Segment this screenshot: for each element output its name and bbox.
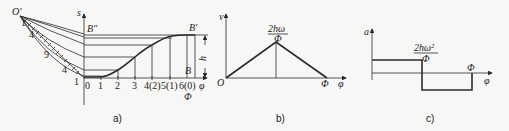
level-label-denominator: Φ [422,53,430,64]
phi-axis-label-b: φ [338,78,344,89]
period-label-a: Φ [184,91,192,102]
displacement-curve [84,35,195,77]
fan-label-1: 1 [21,17,26,28]
velocity-triangle [226,42,327,78]
caption-b: b) [276,113,285,124]
phi-axis-label-a: φ [199,80,205,91]
origin-label-a: O' [12,6,22,17]
caption-c: c) [426,113,434,124]
s-axis-label: s [77,7,81,18]
point-B: B [185,65,191,76]
v-axis-label: v [219,11,224,22]
svg-text:2: 2 [115,80,120,91]
panel-b-velocity: v O 2hω Φ Φ φ b) [217,11,346,124]
svg-text:0: 0 [85,80,90,91]
phi-axis-label-c: φ [484,75,490,86]
end-label-c: Φ [467,62,475,73]
cam-motion-diagram: O' s B″ B' B h 1 4 9 4 1 0 1 2 3 4(2) 5(… [0,0,509,131]
a-axis-label: a [364,26,369,37]
horizontal-projection-lines [84,35,195,76]
fan-label-1b: 1 [74,76,79,87]
panel-a-displacement: O' s B″ B' B h 1 4 9 4 1 0 1 2 3 4(2) 5(… [12,6,208,124]
fan-label-4b: 4 [62,64,67,75]
fan-lines [20,16,84,76]
end-label-b: Φ [321,78,329,89]
caption-a: a) [113,113,122,124]
fan-label-4: 4 [29,29,34,40]
h-label: h [197,56,208,61]
point-B-double-prime: B″ [87,23,98,34]
svg-text:1: 1 [98,80,103,91]
acceleration-step [372,60,472,90]
point-B-prime: B' [189,22,198,33]
phi-tick-labels-a: 0 1 2 3 4(2) 5(1) 6(0) [85,80,196,92]
svg-text:5(1): 5(1) [161,80,178,92]
vertical-projection-lines [118,35,187,78]
svg-text:4(2): 4(2) [144,80,161,92]
origin-label-b: O [217,77,224,88]
peak-label-denominator: Φ [274,33,282,44]
svg-text:3: 3 [132,80,137,91]
panel-c-acceleration: a 2hω² Φ Φ φ c) [364,26,492,124]
fan-label-9: 9 [44,49,49,60]
level-label-numerator: 2hω² [414,42,435,53]
